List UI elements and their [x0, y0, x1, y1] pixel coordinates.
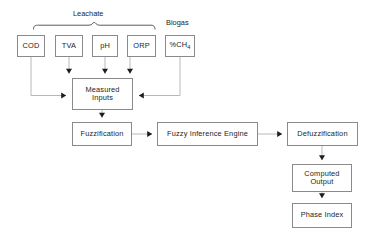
- node-measured-inputs[interactable]: Measured Inputs: [72, 78, 133, 110]
- flowchart-diagram: Leachate Biogas COD TVA pH ORP %CH4 Meas…: [0, 0, 373, 244]
- node-phase-index[interactable]: Phase Index: [292, 203, 352, 228]
- node-fuzzy-inference-engine[interactable]: Fuzzy Inference Engine: [157, 122, 258, 146]
- leachate-brace: [34, 22, 156, 29]
- node-defuzzification[interactable]: Defuzzification: [287, 122, 358, 146]
- node-fuzzification[interactable]: Fuzzification: [72, 122, 132, 146]
- input-label-cod: COD: [21, 42, 42, 50]
- input-label-ch4-prefix: %CH: [170, 40, 188, 49]
- input-label-orp: ORP: [131, 42, 151, 50]
- input-label-tva: TVA: [60, 42, 78, 50]
- node-fuzzy-inference-engine-label: Fuzzy Inference Engine: [165, 130, 250, 138]
- node-phase-index-label: Phase Index: [299, 211, 346, 219]
- input-box-orp[interactable]: ORP: [127, 35, 156, 57]
- input-box-cod[interactable]: COD: [17, 35, 45, 57]
- node-fuzzification-label: Fuzzification: [79, 130, 126, 138]
- input-box-ph[interactable]: pH: [92, 35, 118, 57]
- node-defuzzification-label: Defuzzification: [295, 130, 349, 138]
- group-label-leachate: Leachate: [73, 9, 103, 18]
- group-label-biogas: Biogas: [166, 18, 189, 27]
- node-computed-output[interactable]: Computed Output: [292, 164, 352, 192]
- node-computed-output-line2: Output: [308, 178, 335, 186]
- edge-ch4-to-measured-inputs: [139, 57, 180, 96]
- input-label-ph: pH: [98, 42, 112, 50]
- input-box-tva[interactable]: TVA: [55, 35, 83, 57]
- input-label-ch4: %CH4: [168, 41, 193, 51]
- input-label-ch4-subscript: 4: [187, 45, 190, 51]
- input-box-ch4[interactable]: %CH4: [165, 35, 195, 57]
- node-measured-inputs-line2: Inputs: [90, 94, 115, 102]
- edge-cod-to-measured-inputs: [31, 57, 66, 96]
